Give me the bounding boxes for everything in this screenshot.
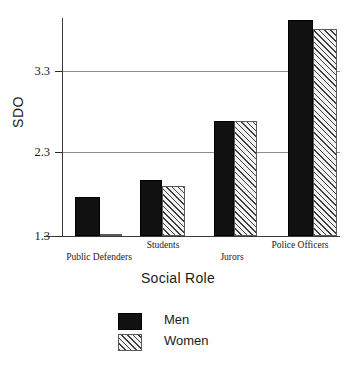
bar-men-public-defenders — [75, 197, 100, 236]
y-tick-mark-1.3 — [55, 236, 62, 237]
y-tick-mark-2.3 — [55, 152, 62, 153]
x-tick-label-jurors: Jurors — [182, 252, 282, 262]
bar-men-police-officers — [288, 20, 313, 236]
y-tick-label-2.3: 2.3 — [16, 145, 50, 160]
legend-swatch-men-icon — [118, 313, 142, 330]
bar-women-public-defenders — [100, 234, 122, 236]
bar-women-students — [162, 186, 185, 236]
bar-men-jurors — [214, 121, 234, 236]
bar-women-police-officers — [313, 29, 337, 236]
legend-label-women: Women — [164, 333, 209, 348]
x-axis-line — [44, 236, 340, 237]
legend-label-men: Men — [164, 312, 189, 327]
bar-chart: SDO 3.3 2.3 1.3 Public Defenders Student… — [0, 0, 356, 375]
x-tick-label-public-defenders: Public Defenders — [34, 252, 164, 262]
y-tick-label-1.3: 1.3 — [16, 229, 50, 244]
y-tick-label-3.3: 3.3 — [16, 64, 50, 79]
y-tick-mark-3.3 — [55, 71, 62, 72]
bar-men-students — [140, 180, 162, 236]
bar-women-jurors — [234, 121, 257, 236]
legend-swatch-women-icon — [118, 334, 142, 351]
y-axis-line — [62, 18, 63, 237]
x-tick-label-students: Students — [113, 240, 213, 250]
x-axis-title: Social Role — [0, 270, 356, 286]
y-axis-title: SDO — [10, 82, 26, 142]
x-tick-label-police-officers: Police Officers — [245, 240, 355, 250]
